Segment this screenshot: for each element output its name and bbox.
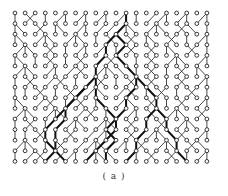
grid-node-icon — [54, 54, 58, 58]
grid-node-icon — [195, 43, 199, 47]
grid-node-icon — [185, 117, 189, 121]
grid-node-icon — [165, 107, 169, 111]
grid-node-icon — [54, 32, 58, 36]
grid-node-icon — [104, 64, 108, 68]
grid-node-icon — [64, 64, 68, 68]
grid-node-icon — [23, 117, 27, 121]
grid-node-icon — [185, 85, 189, 89]
grid-node-icon — [13, 96, 17, 100]
grid-node-icon — [104, 117, 108, 121]
grid-node-icon — [144, 64, 148, 68]
grid-node-icon — [74, 128, 78, 132]
grid-node-icon — [144, 149, 148, 153]
grid-node-icon — [54, 43, 58, 47]
grid-node-icon — [84, 107, 88, 111]
grid-node-icon — [114, 75, 118, 79]
grid-node-icon — [124, 32, 128, 36]
grid-node-icon — [33, 117, 37, 121]
grid-node-icon — [74, 138, 78, 142]
grid-node-icon — [124, 22, 128, 26]
grid-node-icon — [54, 11, 58, 15]
grid-node-icon — [144, 117, 148, 121]
grid-node-icon — [43, 96, 47, 100]
grid-node-icon — [33, 149, 37, 153]
grid-node-icon — [185, 107, 189, 111]
grid-node-icon — [175, 149, 179, 153]
grid-node-icon — [13, 32, 17, 36]
grid-node-icon — [33, 11, 37, 15]
grid-node-icon — [33, 22, 37, 26]
grid-node-icon — [43, 138, 47, 142]
grid-node-icon — [175, 107, 179, 111]
grid-node-icon — [74, 11, 78, 15]
grid-node-icon — [114, 64, 118, 68]
grid-node-icon — [64, 160, 68, 164]
grid-node-icon — [33, 43, 37, 47]
grid-node-icon — [205, 64, 209, 68]
grid-node-icon — [13, 107, 17, 111]
grid-node-icon — [185, 32, 189, 36]
grid-node-icon — [94, 96, 98, 100]
grid-node-icon — [33, 85, 37, 89]
grid-node-icon — [74, 117, 78, 121]
grid-node-icon — [114, 117, 118, 121]
grid-node-icon — [13, 85, 17, 89]
grid-node-icon — [13, 22, 17, 26]
grid-node-icon — [175, 138, 179, 142]
grid-node-icon — [43, 75, 47, 79]
grid-node-icon — [165, 85, 169, 89]
grid-node-icon — [175, 32, 179, 36]
grid-node-icon — [185, 64, 189, 68]
grid-node-icon — [13, 43, 17, 47]
grid-node-icon — [175, 11, 179, 15]
grid-node-icon — [205, 22, 209, 26]
grid-node-icon — [155, 149, 159, 153]
grid-node-icon — [64, 149, 68, 153]
grid-node-icon — [84, 149, 88, 153]
highlighted-path — [106, 34, 136, 161]
grid-node-icon — [74, 54, 78, 58]
grid-node-icon — [74, 64, 78, 68]
grid-node-icon — [114, 43, 118, 47]
grid-node-icon — [104, 149, 108, 153]
grid-node-icon — [114, 160, 118, 164]
grid-node-icon — [104, 43, 108, 47]
grid-node-icon — [43, 22, 47, 26]
grid-node-icon — [23, 128, 27, 132]
grid-node-icon — [124, 160, 128, 164]
grid-node-icon — [43, 32, 47, 36]
grid-node-icon — [114, 32, 118, 36]
grid-node-icon — [23, 160, 27, 164]
grid-node-icon — [84, 117, 88, 121]
grid-node-icon — [155, 75, 159, 79]
grid-node-icon — [64, 75, 68, 79]
grid-node-icon — [165, 32, 169, 36]
grid-node-icon — [205, 43, 209, 47]
grid-node-icon — [195, 96, 199, 100]
figure-caption: ( a ) — [0, 171, 228, 181]
grid-node-icon — [134, 54, 138, 58]
grid-node-icon — [134, 75, 138, 79]
grid-node-icon — [43, 117, 47, 121]
grid-node-icon — [84, 128, 88, 132]
grid-node-icon — [114, 149, 118, 153]
grid-node-icon — [33, 107, 37, 111]
grid-node-icon — [114, 128, 118, 132]
grid-node-icon — [84, 85, 88, 89]
grid-node-icon — [165, 75, 169, 79]
grid-node-icon — [23, 138, 27, 142]
grid-node-icon — [54, 96, 58, 100]
grid-node-icon — [43, 160, 47, 164]
grid-node-icon — [54, 149, 58, 153]
grid-node-icon — [155, 96, 159, 100]
grid-node-icon — [144, 107, 148, 111]
grid-node-icon — [165, 96, 169, 100]
grid-node-icon — [155, 64, 159, 68]
grid-node-icon — [104, 107, 108, 111]
grid-node-icon — [205, 117, 209, 121]
grid-node-icon — [124, 107, 128, 111]
grid-node-icon — [165, 128, 169, 132]
grid-node-icon — [134, 11, 138, 15]
grid-node-icon — [64, 32, 68, 36]
grid-node-icon — [54, 64, 58, 68]
